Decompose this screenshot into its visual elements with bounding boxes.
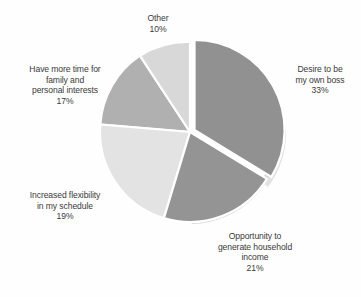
slice-label-boss-line2: my own boss [281, 75, 359, 86]
slice-label-other-line1: Other [118, 13, 198, 24]
slice-label-flexibility-line1: Increased flexibility [6, 190, 124, 201]
slice-label-income-line2: generate household [196, 242, 314, 253]
slice-label-flexibility: Increased flexibility in my schedule 19% [6, 190, 124, 222]
slice-label-boss: Desire to be my own boss 33% [281, 64, 359, 96]
slice-label-income-line1: Opportunity to [196, 231, 314, 242]
slice-label-family: Have more time for family and personal i… [4, 64, 126, 106]
slice-label-family-line1: Have more time for [4, 64, 126, 75]
slice-label-income: Opportunity to generate household income… [196, 231, 314, 273]
slice-label-other-percent: 10% [118, 24, 198, 35]
slice-label-family-line2: family and [4, 75, 126, 86]
slice-label-family-percent: 17% [4, 96, 126, 107]
slice-label-flexibility-percent: 19% [6, 211, 124, 222]
slice-label-income-line3: income [196, 252, 314, 263]
slice-label-boss-line1: Desire to be [281, 64, 359, 75]
slice-label-boss-percent: 33% [281, 85, 359, 96]
slice-label-other: Other 10% [118, 13, 198, 34]
slice-label-family-line3: personal interests [4, 85, 126, 96]
slice-label-income-percent: 21% [196, 263, 314, 274]
pie-chart-figure: Desire to be my own boss 33% Opportunity… [0, 0, 361, 297]
slice-label-flexibility-line2: in my schedule [6, 201, 124, 212]
